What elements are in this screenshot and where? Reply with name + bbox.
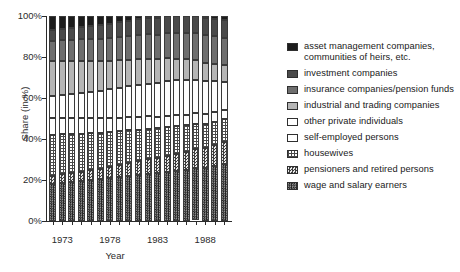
segment-other-private-individuals xyxy=(106,89,113,118)
segment-insurance-companies-pension-funds xyxy=(78,39,85,61)
legend-item-1: investment companies xyxy=(287,68,457,79)
legend-item-7: pensioners and retired persons xyxy=(287,164,457,175)
segment-self-employed-persons xyxy=(202,114,209,124)
segment-housewives xyxy=(154,128,161,158)
x-tickmark xyxy=(62,222,63,225)
segment-pensioners-and-retired-persons xyxy=(116,165,123,177)
segment-industrial-and-trading-companies xyxy=(125,60,132,87)
segment-other-private-individuals xyxy=(49,96,56,119)
bar-1976 xyxy=(87,16,94,221)
segment-self-employed-persons xyxy=(154,117,161,129)
segment-industrial-and-trading-companies xyxy=(173,59,180,81)
segment-pensioners-and-retired-persons xyxy=(106,167,113,178)
legend-swatch-icon xyxy=(287,118,298,126)
x-tickmark xyxy=(119,222,120,225)
segment-self-employed-persons xyxy=(87,118,94,133)
bar-1987 xyxy=(192,16,199,221)
segment-housewives xyxy=(49,135,56,176)
segment-investment-companies xyxy=(221,20,228,37)
segment-other-private-individuals xyxy=(173,80,180,115)
segment-other-private-individuals xyxy=(154,83,161,117)
bar-1983 xyxy=(154,16,161,221)
segment-self-employed-persons xyxy=(183,115,190,126)
segment-insurance-companies-pension-funds xyxy=(97,39,104,62)
bar-1984 xyxy=(164,16,171,221)
segment-housewives xyxy=(173,126,180,154)
segment-wage-and-salary-earners xyxy=(59,183,66,221)
segment-wage-and-salary-earners xyxy=(183,170,190,221)
segment-investment-companies xyxy=(145,18,152,34)
segment-investment-companies xyxy=(125,21,132,36)
segment-investment-companies xyxy=(183,16,190,33)
plot-area xyxy=(48,16,229,221)
legend-swatch-icon xyxy=(287,86,298,94)
legend-swatch-icon xyxy=(287,102,298,110)
segment-self-employed-persons xyxy=(173,115,180,126)
segment-other-private-individuals xyxy=(221,82,228,111)
segment-investment-companies xyxy=(211,19,218,36)
segment-housewives xyxy=(116,131,123,165)
segment-housewives xyxy=(221,119,228,142)
segment-self-employed-persons xyxy=(116,118,123,132)
y-tickmark xyxy=(42,98,46,99)
legend-label: other private individuals xyxy=(304,116,403,127)
segment-investment-companies xyxy=(78,27,85,39)
segment-pensioners-and-retired-persons xyxy=(145,159,152,173)
legend: asset management companies,communities o… xyxy=(287,41,457,196)
segment-pensioners-and-retired-persons xyxy=(87,170,94,180)
segment-pensioners-and-retired-persons xyxy=(173,154,180,171)
legend-item-8: wage and salary earners xyxy=(287,180,457,191)
segment-industrial-and-trading-companies xyxy=(68,61,75,94)
segment-industrial-and-trading-companies xyxy=(87,61,94,92)
x-tick-1978: 1978 xyxy=(93,234,127,245)
y-tick-40%: 40% xyxy=(8,134,42,144)
segment-insurance-companies-pension-funds xyxy=(68,40,75,61)
bar-1985 xyxy=(173,16,180,221)
segment-asset-management-companies-communities-of-heirs-etc- xyxy=(87,16,94,26)
segment-self-employed-persons xyxy=(192,113,199,123)
segment-insurance-companies-pension-funds xyxy=(106,38,113,61)
x-tickmark xyxy=(110,222,111,225)
segment-other-private-individuals xyxy=(68,94,75,119)
x-tickmark xyxy=(177,222,178,225)
segment-wage-and-salary-earners xyxy=(106,178,113,221)
segment-pensioners-and-retired-persons xyxy=(183,152,190,170)
legend-item-5: self-employed persons xyxy=(287,132,457,143)
x-tick-1983: 1983 xyxy=(141,234,175,245)
x-tickmark xyxy=(158,222,159,225)
legend-item-4: other private individuals xyxy=(287,116,457,127)
segment-investment-companies xyxy=(173,16,180,33)
segment-housewives xyxy=(106,132,113,167)
y-tickmark xyxy=(42,139,46,140)
segment-wage-and-salary-earners xyxy=(154,173,161,221)
segment-pensioners-and-retired-persons xyxy=(154,158,161,173)
segment-investment-companies xyxy=(97,25,104,38)
segment-housewives xyxy=(145,129,152,160)
segment-self-employed-persons xyxy=(211,112,218,121)
segment-asset-management-companies-communities-of-heirs-etc- xyxy=(97,16,104,25)
segment-industrial-and-trading-companies xyxy=(59,61,66,95)
segment-other-private-individuals xyxy=(135,85,142,117)
segment-self-employed-persons xyxy=(164,116,171,127)
segment-wage-and-salary-earners xyxy=(202,168,209,221)
segment-pensioners-and-retired-persons xyxy=(59,174,66,183)
x-axis-title: Year xyxy=(0,250,230,261)
bar-1990 xyxy=(221,16,228,221)
segment-investment-companies xyxy=(68,28,75,39)
legend-swatch-icon xyxy=(287,166,298,174)
segment-industrial-and-trading-companies xyxy=(164,58,171,81)
segment-wage-and-salary-earners xyxy=(68,182,75,221)
bar-1982 xyxy=(145,16,152,221)
segment-investment-companies xyxy=(59,29,66,40)
y-tickmark xyxy=(42,57,46,58)
segment-investment-companies xyxy=(116,22,123,37)
segment-other-private-individuals xyxy=(78,93,85,119)
segment-self-employed-persons xyxy=(221,110,228,119)
segment-pensioners-and-retired-persons xyxy=(192,149,199,167)
bar-1980 xyxy=(125,16,132,221)
segment-other-private-individuals xyxy=(202,81,209,114)
segment-wage-and-salary-earners xyxy=(173,171,180,221)
segment-insurance-companies-pension-funds xyxy=(49,41,56,62)
segment-industrial-and-trading-companies xyxy=(202,63,209,81)
x-tickmark xyxy=(215,222,216,225)
